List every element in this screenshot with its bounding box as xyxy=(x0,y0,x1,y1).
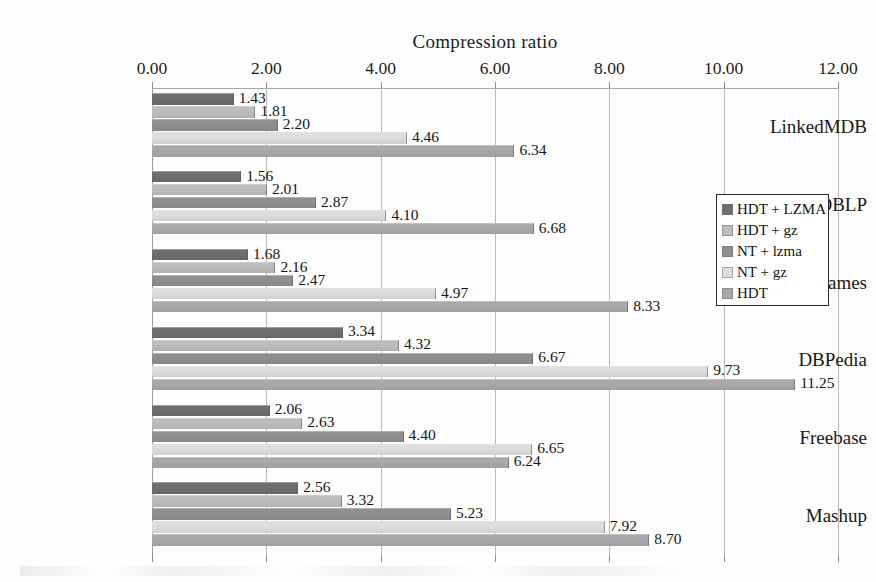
bar-freebase-nt-gz xyxy=(152,444,532,455)
bar-geonames-hdt-lzma xyxy=(152,249,248,260)
bar-freebase-hdt-lzma xyxy=(152,405,270,416)
bar-dblp-nt-gz xyxy=(152,210,386,221)
chart-figure: Compression ratio 0.002.004.006.008.0010… xyxy=(0,0,876,582)
bar-value-freebase-hdt-lzma: 2.06 xyxy=(275,400,302,418)
bar-value-geonames-nt-lzma: 2.47 xyxy=(298,271,325,289)
legend-item-nt-gz[interactable]: NT + gz xyxy=(722,262,828,283)
bar-value-freebase-hdt-gz: 2.63 xyxy=(307,413,334,431)
legend-label: HDT + gz xyxy=(737,222,798,239)
x-axis-label-4.00: 4.00 xyxy=(365,58,396,79)
bar-value-dbpedia-nt-lzma: 6.67 xyxy=(538,348,565,366)
bar-value-linkedmdb-nt-gz: 4.46 xyxy=(412,128,439,146)
legend-label: HDT + LZMA xyxy=(737,201,826,218)
scan-artifact xyxy=(20,566,720,576)
bar-geonames-nt-gz xyxy=(152,288,436,299)
bar-geonames-hdt xyxy=(152,301,628,312)
legend-item-hdt-lzma[interactable]: HDT + LZMA xyxy=(722,199,828,220)
bar-dbpedia-hdt-lzma xyxy=(152,327,343,338)
category-label-linkedmdb: LinkedMDB xyxy=(728,116,876,138)
bar-freebase-hdt-gz xyxy=(152,418,302,429)
bar-linkedmdb-hdt-gz xyxy=(152,106,255,117)
legend-label: HDT xyxy=(737,285,768,302)
bar-dblp-hdt xyxy=(152,223,534,234)
legend-swatch-icon xyxy=(722,267,733,278)
x-tick-bottom-2.00 xyxy=(266,555,267,562)
bar-mashup-hdt-lzma xyxy=(152,482,298,493)
bar-mashup-hdt xyxy=(152,534,649,545)
bar-value-dblp-hdt-lzma: 1.56 xyxy=(246,167,273,185)
bar-value-mashup-hdt-gz: 3.32 xyxy=(347,491,374,509)
category-label-mashup: Mashup xyxy=(728,505,876,527)
legend-swatch-icon xyxy=(722,288,733,299)
bar-dbpedia-nt-gz xyxy=(152,366,708,377)
bar-value-dblp-hdt: 6.68 xyxy=(539,219,566,237)
bar-value-freebase-hdt: 6.24 xyxy=(514,452,541,470)
bar-value-mashup-hdt-lzma: 2.56 xyxy=(303,478,330,496)
bar-dbpedia-hdt-gz xyxy=(152,340,399,351)
bar-dblp-hdt-gz xyxy=(152,184,267,195)
chart-title: Compression ratio xyxy=(0,31,876,53)
x-tick-bottom-0.00 xyxy=(152,555,153,562)
bar-value-mashup-hdt: 8.70 xyxy=(654,530,681,548)
x-axis-label-2.00: 2.00 xyxy=(251,58,282,79)
legend-swatch-icon xyxy=(722,246,733,257)
bar-value-dbpedia-hdt: 11.25 xyxy=(800,374,834,392)
legend-label: NT + gz xyxy=(737,264,787,281)
legend-item-nt-lzma[interactable]: NT + lzma xyxy=(722,241,828,262)
x-axis-label-0.00: 0.00 xyxy=(137,58,168,79)
x-axis-label-8.00: 8.00 xyxy=(594,58,625,79)
chart-title-text: Compression ratio xyxy=(413,31,558,53)
legend-swatch-icon xyxy=(722,204,733,215)
bar-value-linkedmdb-hdt: 6.34 xyxy=(519,141,546,159)
legend-box: HDT + LZMAHDT + gzNT + lzmaNT + gzHDT xyxy=(716,194,829,306)
bar-value-geonames-hdt: 8.33 xyxy=(633,297,660,315)
x-tick-bottom-4.00 xyxy=(381,555,382,562)
bar-value-linkedmdb-nt-lzma: 2.20 xyxy=(283,115,310,133)
bar-value-geonames-hdt-lzma: 1.68 xyxy=(253,245,280,263)
gridline-6.00 xyxy=(495,88,496,555)
x-axis-label-10.00: 10.00 xyxy=(704,58,743,79)
bar-value-dblp-nt-gz: 4.10 xyxy=(391,206,418,224)
bar-linkedmdb-hdt-lzma xyxy=(152,93,234,104)
gridline-12.00 xyxy=(838,88,839,555)
bar-value-dbpedia-hdt-lzma: 3.34 xyxy=(348,322,375,340)
bar-mashup-hdt-gz xyxy=(152,495,342,506)
x-tick-bottom-6.00 xyxy=(495,555,496,562)
category-label-dbpedia: DBPedia xyxy=(728,349,876,371)
bar-value-geonames-nt-gz: 4.97 xyxy=(441,284,468,302)
x-tick-bottom-12.00 xyxy=(838,555,839,562)
category-label-freebase: Freebase xyxy=(728,427,876,449)
bar-value-dbpedia-hdt-gz: 4.32 xyxy=(404,335,431,353)
bar-dblp-nt-lzma xyxy=(152,197,316,208)
bar-dbpedia-nt-lzma xyxy=(152,353,533,364)
bar-dblp-hdt-lzma xyxy=(152,171,241,182)
plot-area: 1.431.812.204.466.341.562.012.874.106.68… xyxy=(152,88,838,555)
gridline-8.00 xyxy=(609,88,610,555)
bar-mashup-nt-lzma xyxy=(152,508,451,519)
legend-item-hdt[interactable]: HDT xyxy=(722,283,828,304)
x-axis-label-6.00: 6.00 xyxy=(480,58,511,79)
bar-linkedmdb-nt-gz xyxy=(152,132,407,143)
x-tick-bottom-10.00 xyxy=(724,555,725,562)
legend-label: NT + lzma xyxy=(737,243,802,260)
legend-item-hdt-gz[interactable]: HDT + gz xyxy=(722,220,828,241)
bar-value-freebase-nt-gz: 6.65 xyxy=(537,439,564,457)
bar-value-mashup-nt-gz: 7.92 xyxy=(610,517,637,535)
bar-linkedmdb-nt-lzma xyxy=(152,119,278,130)
bar-freebase-hdt xyxy=(152,457,509,468)
bar-geonames-hdt-gz xyxy=(152,262,275,273)
bar-value-mashup-nt-lzma: 5.23 xyxy=(456,504,483,522)
bar-dbpedia-hdt xyxy=(152,379,795,390)
bar-geonames-nt-lzma xyxy=(152,275,293,286)
legend-swatch-icon xyxy=(722,225,733,236)
bar-linkedmdb-hdt xyxy=(152,145,514,156)
bar-value-dblp-nt-lzma: 2.87 xyxy=(321,193,348,211)
bar-value-freebase-nt-lzma: 4.40 xyxy=(409,426,436,444)
bar-value-dblp-hdt-gz: 2.01 xyxy=(272,180,299,198)
gridline-10.00 xyxy=(724,88,725,555)
x-axis-label-12.00: 12.00 xyxy=(818,58,857,79)
bar-mashup-nt-gz xyxy=(152,521,605,532)
bar-freebase-nt-lzma xyxy=(152,431,404,442)
gridline-4.00 xyxy=(381,88,382,555)
x-tick-bottom-8.00 xyxy=(609,555,610,562)
